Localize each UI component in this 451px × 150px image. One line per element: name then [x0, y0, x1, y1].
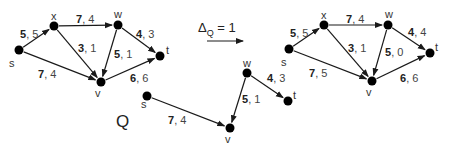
node-label-v: v	[95, 87, 101, 99]
edge-label-s-x: 5, 5	[20, 28, 38, 40]
node-s	[15, 46, 24, 55]
edge-s-v	[24, 52, 96, 80]
node-label-t: t	[166, 44, 169, 56]
edge-label-x-v: 3, 1	[78, 42, 96, 54]
edge-label-w-v: 5, 1	[114, 48, 132, 60]
edge-label-s-v: 7, 5	[309, 67, 327, 79]
node-label-w: w	[113, 8, 122, 20]
edge-label-v-t: 6, 6	[130, 72, 148, 84]
node-v	[368, 77, 377, 86]
flow-network-diagram: 5, 57, 43, 15, 14, 37, 46, 6sxwtv 5, 57,…	[0, 0, 451, 150]
node-label-v: v	[225, 133, 231, 145]
edge-label-x-w: 7, 4	[76, 13, 94, 25]
node-v	[97, 78, 106, 87]
augmenting-path-q: 7, 45, 14, 3svwtQ	[116, 57, 296, 145]
node-label-w: w	[384, 8, 393, 20]
node-label-x: x	[51, 10, 57, 22]
delta-label: ΔQ = 1	[198, 20, 236, 38]
node-label-v: v	[366, 86, 372, 98]
node-label-w: w	[242, 57, 251, 69]
edge-label-s-v: 7, 4	[38, 68, 56, 80]
edge-s-v	[294, 51, 367, 79]
graph-after: 5, 57, 43, 15, 04, 47, 56, 6sxwtv	[281, 8, 438, 98]
edge-label-w-t: 4, 3	[267, 72, 285, 84]
edge-label-w-t: 4, 4	[408, 26, 426, 38]
node-v	[226, 124, 235, 133]
node-w	[114, 21, 123, 30]
edge-x-w	[59, 25, 112, 26]
edge-label-w-v: 5, 1	[242, 93, 260, 105]
edge-label-s-x: 5, 5	[290, 27, 308, 39]
node-t	[284, 97, 293, 106]
delta-annotation: ΔQ = 1	[198, 20, 243, 41]
node-label-s: s	[141, 98, 147, 110]
node-label-t: t	[293, 89, 296, 101]
edge-s-v	[152, 98, 225, 126]
edge-label-w-v: 5, 0	[385, 46, 403, 58]
node-label-s: s	[281, 56, 287, 68]
path-q-label: Q	[116, 112, 129, 131]
edge-label-x-w: 7, 4	[346, 13, 364, 25]
edge-label-x-v: 3, 1	[348, 42, 366, 54]
node-t	[156, 52, 165, 61]
node-x	[320, 21, 329, 30]
edge-label-s-v: 7, 4	[168, 114, 186, 126]
node-label-t: t	[435, 41, 438, 53]
edge-label-v-t: 6, 6	[400, 72, 418, 84]
node-x	[50, 22, 59, 31]
edge-label-w-t: 4, 3	[136, 28, 154, 40]
graph-before: 5, 57, 43, 15, 14, 37, 46, 6sxwtv	[9, 8, 169, 99]
node-s	[285, 45, 294, 54]
node-t	[426, 49, 435, 58]
node-w	[384, 21, 393, 30]
node-label-x: x	[321, 9, 327, 21]
node-label-s: s	[9, 57, 15, 69]
node-w	[243, 69, 252, 78]
